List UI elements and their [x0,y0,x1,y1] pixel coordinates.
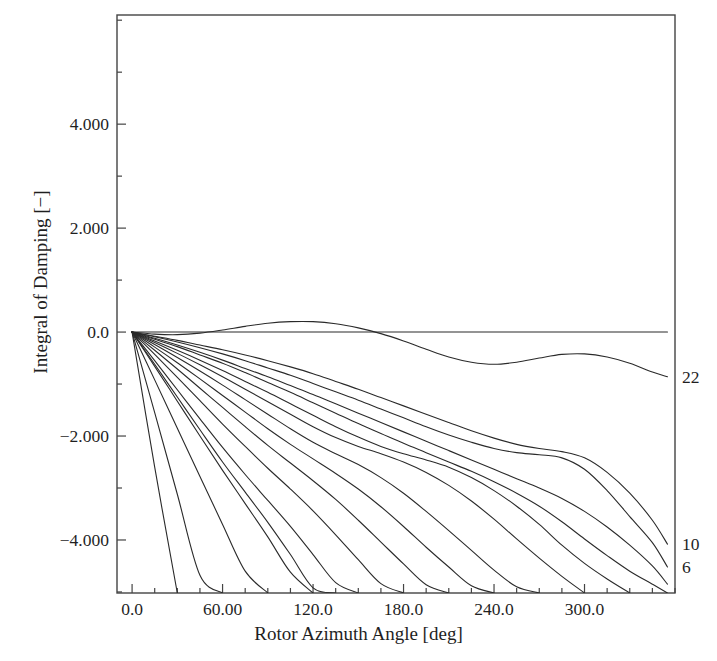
y-tick-label: 4.000 [70,114,109,135]
x-tick-label: 300.0 [565,599,604,620]
x-axis-title: Rotor Azimuth Angle [deg] [0,623,717,645]
y-axis-title: Integral of Damping [−] [30,190,51,373]
x-tick-label: 60.00 [203,599,242,620]
y-axis-title-wrapper: Integral of Damping [−] [30,132,56,432]
x-tick-label: 180.0 [384,599,423,620]
y-tick-label: 2.000 [70,218,109,239]
chart-figure: Integral of Damping [−] Rotor Azimuth An… [0,0,717,661]
curve-edge-label: 22 [682,366,700,387]
y-tick-label: 0.0 [87,322,109,343]
x-tick-label: 240.0 [474,599,513,620]
y-tick-label: −2.000 [60,426,109,447]
y-tick-label: −4.000 [60,529,109,550]
x-tick-label: 120.0 [293,599,332,620]
plot-frame [117,15,675,593]
curve-edge-label: 10 [682,534,700,555]
curve-edge-label: 6 [682,557,691,578]
x-tick-label: 0.0 [121,599,143,620]
